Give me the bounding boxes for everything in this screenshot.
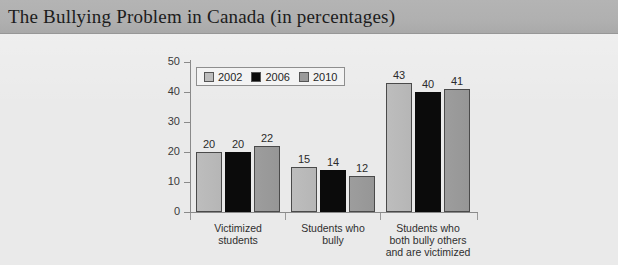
bar-2006-group-2[interactable]: 14 [320, 62, 346, 212]
category-label-3: Students whoboth bully othersand are vic… [370, 222, 486, 258]
group-separator-tick-4 [477, 213, 478, 220]
bar-rect[interactable] [291, 167, 317, 212]
bar-rect[interactable] [349, 176, 375, 212]
bar-rect[interactable] [415, 92, 441, 212]
group-separator-tick-2 [285, 213, 286, 220]
header-band: The Bullying Problem in Canada (in perce… [0, 0, 618, 34]
bar-2006-group-3[interactable]: 40 [415, 62, 441, 212]
bar-2002-group-1[interactable]: 20 [196, 62, 222, 212]
bar-rect[interactable] [320, 170, 346, 212]
bar-rect[interactable] [254, 146, 280, 212]
bar-value-label: 12 [344, 162, 380, 174]
bar-2010-group-1[interactable]: 22 [254, 62, 280, 212]
group-separator-tick-3 [380, 213, 381, 220]
bar-group-2: 151412 [291, 62, 375, 212]
bar-group-3: 434041 [386, 62, 470, 212]
bar-rect[interactable] [444, 89, 470, 212]
bar-2002-group-2[interactable]: 15 [291, 62, 317, 212]
page-title: The Bullying Problem in Canada (in perce… [8, 5, 395, 29]
category-label-line: Students who [370, 222, 486, 234]
bar-2010-group-2[interactable]: 12 [349, 62, 375, 212]
bar-2006-group-1[interactable]: 20 [225, 62, 251, 212]
bar-rect[interactable] [386, 83, 412, 212]
bar-value-label: 41 [439, 75, 475, 87]
bar-value-label: 22 [249, 132, 285, 144]
category-label-line: and are victimized [370, 246, 486, 258]
page-background: The Bullying Problem in Canada (in perce… [0, 0, 618, 265]
bar-rect[interactable] [196, 152, 222, 212]
group-separator-tick-1 [190, 213, 191, 220]
bar-chart: 01020304050 200220062010 202022151412434… [0, 34, 618, 265]
bar-group-1: 202022 [196, 62, 280, 212]
bar-2010-group-3[interactable]: 41 [444, 62, 470, 212]
bar-rect[interactable] [225, 152, 251, 212]
category-label-line: both bully others [370, 234, 486, 246]
bar-2002-group-3[interactable]: 43 [386, 62, 412, 212]
